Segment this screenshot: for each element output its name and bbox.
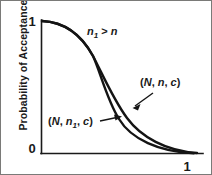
annotation-curve-inner: (N, n1, c) bbox=[48, 115, 93, 130]
annotation-condition-text: n1 > n bbox=[87, 25, 118, 40]
leader-line-outer bbox=[135, 93, 153, 106]
y-axis-tick-label-top: 1 bbox=[28, 14, 35, 29]
annotation-condition: n1 > n bbox=[87, 25, 118, 40]
plot-area: 1 0 1 n1 > n (N, n, c) (N, n1, c) bbox=[1, 1, 212, 175]
y-axis-title: Probability of Acceptance bbox=[17, 0, 29, 135]
annotation-curve-inner-text: (N, n1, c) bbox=[48, 115, 93, 130]
annotation-curve-outer-text: (N, n, c) bbox=[140, 76, 181, 88]
annotation-curve-outer: (N, n, c) bbox=[140, 76, 181, 88]
x-axis-tick-label-right: 1 bbox=[183, 159, 190, 174]
y-axis-tick-label-bottom: 0 bbox=[28, 141, 35, 156]
oc-curve-figure: 1 0 1 n1 > n (N, n, c) (N, n1, c) Probab… bbox=[0, 0, 212, 175]
